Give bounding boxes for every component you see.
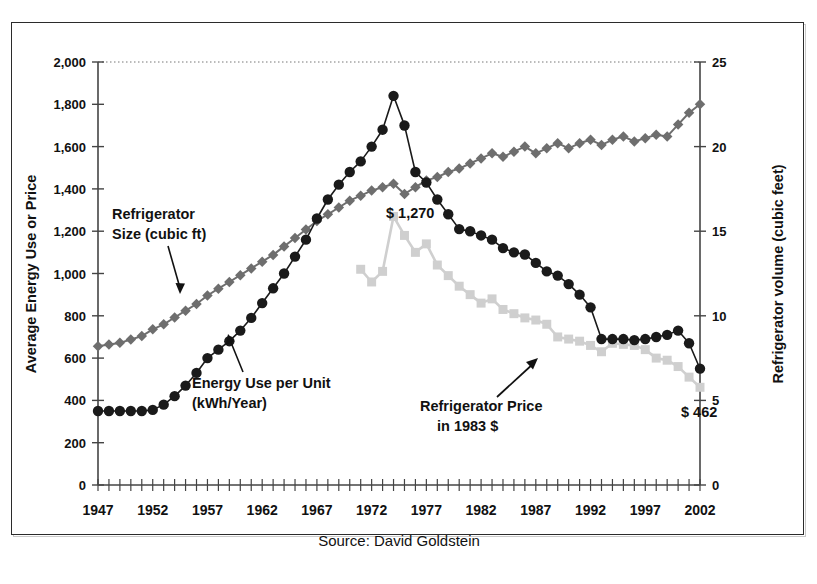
data-point <box>498 243 508 253</box>
size-annotation-arrow-head <box>176 283 186 294</box>
size-annotation-arrow-line <box>168 246 180 288</box>
data-point <box>344 195 355 206</box>
x-tick-label: 1947 <box>82 502 113 518</box>
data-point <box>257 256 268 267</box>
data-point <box>137 406 147 416</box>
data-point <box>312 213 322 223</box>
data-point <box>640 334 650 344</box>
x-tick-label: 2002 <box>684 502 715 518</box>
data-point <box>563 279 573 289</box>
plot-axes <box>98 62 700 485</box>
energy-annotation-line1: Energy Use per Unit <box>192 375 331 391</box>
data-point <box>388 91 398 101</box>
data-point <box>498 152 509 163</box>
data-point <box>169 312 180 323</box>
data-point <box>509 146 519 157</box>
data-point <box>618 334 628 344</box>
data-point <box>488 294 497 303</box>
price-annotation-line1: Refrigerator Price <box>420 398 543 414</box>
annotation-refrigerator-size: Refrigerator Size (cubic ft) <box>112 206 206 294</box>
data-point <box>356 265 365 274</box>
right-tick-label: 15 <box>712 224 726 239</box>
size-annotation-line2: Size (cubic ft) <box>112 226 206 242</box>
data-point <box>148 405 158 415</box>
data-point <box>180 380 190 390</box>
data-point <box>126 334 137 345</box>
data-point <box>213 344 223 354</box>
data-point <box>115 406 125 416</box>
data-point <box>367 277 376 286</box>
data-point <box>574 138 585 149</box>
right-axis-title: Refrigerator volume (cubic feet) <box>770 164 786 383</box>
data-point <box>509 309 518 318</box>
data-point <box>586 341 595 350</box>
data-point <box>531 316 540 325</box>
data-point <box>564 335 573 344</box>
annotation-refrigerator-price: Refrigerator Price in 1983 $ <box>420 358 543 434</box>
data-point <box>607 135 618 146</box>
data-point <box>301 234 311 244</box>
data-point <box>432 194 442 204</box>
data-point <box>202 353 212 363</box>
data-point <box>476 230 486 240</box>
data-point <box>104 339 115 350</box>
data-point <box>553 270 563 280</box>
data-point <box>410 167 420 177</box>
source-note: Source: David Goldstein <box>318 532 480 549</box>
chart-canvas: 02004006008001,0001,2001,4001,6001,8002,… <box>0 0 817 584</box>
data-point <box>629 335 639 345</box>
right-tick-label: 25 <box>712 55 726 70</box>
data-point <box>399 120 409 130</box>
right-tick-label: 10 <box>712 309 726 324</box>
price-peak-label: $ 1,270 <box>386 205 434 221</box>
left-tick-label: 2,000 <box>53 55 86 70</box>
left-axis-title: Average Energy Use or Price <box>23 175 39 374</box>
data-point <box>487 234 497 244</box>
data-point <box>477 299 486 308</box>
data-point <box>444 271 453 280</box>
data-point <box>290 251 300 261</box>
data-point <box>629 136 640 147</box>
data-point <box>685 373 694 382</box>
data-point <box>421 177 431 187</box>
x-tick-label: 1992 <box>575 502 606 518</box>
data-point <box>147 324 158 335</box>
data-point <box>531 258 541 268</box>
data-point <box>596 334 606 344</box>
data-point <box>334 179 344 189</box>
data-point <box>224 277 235 288</box>
data-point <box>433 261 442 270</box>
data-point <box>465 226 475 236</box>
data-point <box>246 313 256 323</box>
left-tick-label: 1,200 <box>53 224 86 239</box>
data-point <box>487 148 498 159</box>
data-point <box>542 320 551 329</box>
data-point <box>126 406 136 416</box>
price-annotation-arrow-line <box>497 363 534 397</box>
data-point <box>652 354 661 363</box>
refrigerator-trends-chart: 02004006008001,0001,2001,4001,6001,8002,… <box>0 0 817 584</box>
data-point <box>180 305 191 316</box>
data-point <box>279 268 289 278</box>
data-point <box>93 341 104 352</box>
x-axis-tick-labels: 1947195219571962196719721977198219871992… <box>82 502 715 518</box>
data-point <box>651 332 661 342</box>
data-point <box>443 167 454 178</box>
data-point <box>422 239 431 248</box>
data-point <box>334 202 345 213</box>
right-tick-label: 20 <box>712 140 726 155</box>
left-tick-label: 400 <box>64 393 86 408</box>
annotation-energy-use: Energy Use per Unit (kWh/Year) <box>192 334 331 411</box>
data-point <box>585 135 596 146</box>
chart-page: 02004006008001,0001,2001,4001,6001,8002,… <box>0 0 817 584</box>
right-tick-label: 0 <box>712 478 719 493</box>
data-point <box>663 356 672 365</box>
x-tick-label: 1952 <box>137 502 168 518</box>
left-axis-ticks: 02004006008001,0001,2001,4001,6001,8002,… <box>53 55 104 493</box>
data-point <box>563 143 574 154</box>
data-point <box>466 290 475 299</box>
data-point <box>520 313 529 322</box>
left-tick-label: 200 <box>64 436 86 451</box>
data-point <box>695 363 705 373</box>
data-point <box>411 248 420 257</box>
